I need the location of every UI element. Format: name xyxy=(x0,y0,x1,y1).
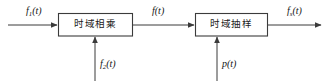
signal-label-middle: f(t) xyxy=(152,6,164,16)
signal-bottom-left-sub: 2 xyxy=(103,63,106,70)
diagram-canvas xyxy=(0,0,330,81)
signal-middle-arg: (t) xyxy=(155,5,164,16)
signal-input-sub: 1 xyxy=(29,10,32,17)
signal-bottom-left-arg: (t) xyxy=(106,58,115,69)
signal-output-arg: (t) xyxy=(292,5,301,16)
signal-label-bottom-right: p(t) xyxy=(222,59,236,69)
signal-label-output: fs(t) xyxy=(287,6,302,16)
signal-bottom-right-arg: (t) xyxy=(227,58,236,69)
signal-label-bottom-left: f2(t) xyxy=(100,59,116,69)
block-1-label: 时域相乘 xyxy=(58,19,133,29)
block-diagram: 时域相乘 时域抽样 f1(t) f(t) fs(t) f2(t) p(t) xyxy=(0,0,330,81)
signal-input-arg: (t) xyxy=(32,5,41,16)
signal-label-input: f1(t) xyxy=(26,6,42,16)
block-2-label: 时域抽样 xyxy=(195,19,268,29)
